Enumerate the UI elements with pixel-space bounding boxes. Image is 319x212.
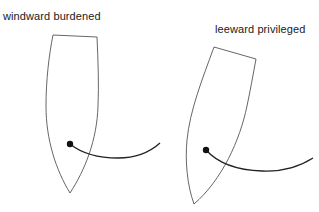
- leeward-boat-hull: [186, 47, 256, 204]
- windward-boat-hull: [46, 35, 98, 193]
- leeward-boat-dot: [203, 147, 209, 153]
- windward-boat-line: [70, 143, 160, 158]
- leeward-boat-line: [206, 150, 313, 171]
- sailing-diagram: [0, 0, 319, 212]
- leeward-boat: [186, 47, 313, 204]
- windward-boat: [46, 35, 160, 193]
- windward-boat-dot: [67, 141, 73, 147]
